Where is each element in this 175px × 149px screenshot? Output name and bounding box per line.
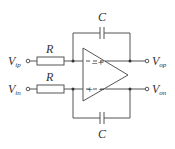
node-dot xyxy=(129,88,132,91)
sign-top-out: + xyxy=(97,56,104,68)
label-vin: Vin xyxy=(8,82,21,97)
label-von: Von xyxy=(152,82,167,97)
cap-top-label: C xyxy=(98,10,107,24)
terminal-in xyxy=(26,87,30,91)
circuit-diagram: C C R R − + + − Vip Vin Vop Von xyxy=(0,0,175,149)
label-vop: Vop xyxy=(152,54,167,69)
cap-bottom-label: C xyxy=(98,127,107,141)
terminal-op xyxy=(145,59,149,63)
label-vip: Vip xyxy=(8,54,21,69)
top-feedback-wire-right xyxy=(104,33,130,61)
node-dot xyxy=(129,60,132,63)
res-bottom-label: R xyxy=(45,70,54,84)
node-dot xyxy=(72,88,75,91)
resistor-top xyxy=(37,57,64,65)
terminal-on xyxy=(145,87,149,91)
sign-bottom-out: − xyxy=(98,83,105,95)
terminal-ip xyxy=(26,59,30,63)
bottom-feedback-wire-right xyxy=(104,89,130,118)
sign-bottom-in: + xyxy=(86,83,93,95)
res-top-label: R xyxy=(45,42,54,56)
resistor-bottom xyxy=(37,85,64,93)
node-dot xyxy=(72,60,75,63)
